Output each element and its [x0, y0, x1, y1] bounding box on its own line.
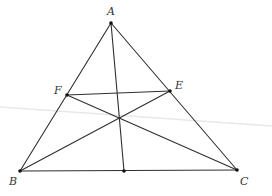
point-a	[109, 21, 113, 25]
label-a: A	[106, 5, 115, 18]
point-f	[65, 93, 69, 97]
paper-fold-line	[0, 107, 272, 126]
point-d	[122, 169, 126, 173]
segment-fe	[67, 91, 170, 95]
labels-group: A B C E F	[8, 5, 249, 188]
label-c: C	[240, 175, 249, 188]
point-c	[235, 168, 239, 172]
point-e	[168, 89, 172, 93]
label-e: E	[174, 79, 183, 92]
segment-ac	[111, 23, 237, 170]
label-b: B	[8, 175, 17, 188]
segment-ab	[20, 23, 111, 171]
segment-bc	[20, 170, 237, 171]
segment-ad	[111, 23, 124, 171]
triangle-diagram: A B C E F	[0, 0, 272, 196]
label-f: F	[53, 84, 62, 97]
segments-group	[20, 23, 237, 171]
point-b	[18, 169, 22, 173]
